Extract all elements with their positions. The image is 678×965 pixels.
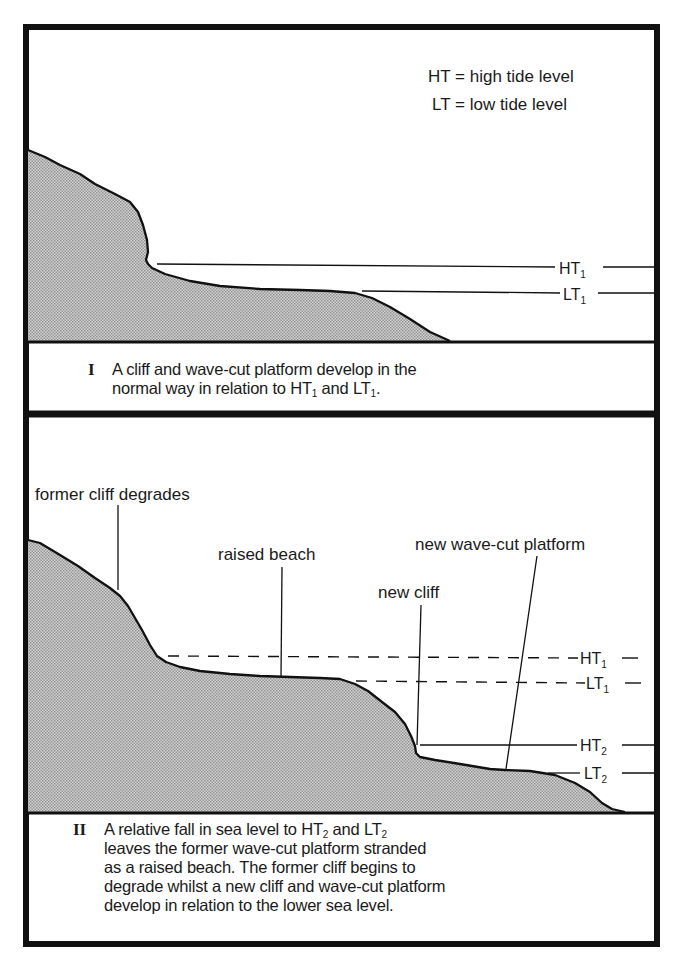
panel-2-caption: II A relative fall in sea level to HT2 a… — [104, 820, 445, 915]
label-new-cliff: new cliff — [378, 583, 439, 602]
panel-2-caption-line1: A relative fall in sea level to HT2 and … — [104, 820, 445, 839]
ht1-line — [157, 264, 555, 267]
former-ht1-dashed-line — [168, 656, 578, 658]
label-former-cliff: former cliff degrades — [35, 485, 190, 504]
label-new-platform: new wave-cut platform — [415, 535, 585, 554]
lt1-line — [362, 291, 560, 293]
panel-1-caption-line2: normal way in relation to HT1 and LT1. — [112, 379, 417, 398]
lt1-label: LT1 — [563, 286, 586, 306]
panel-2-diagram: HT1 LT1 HT2 LT2 former cliff degrades ra… — [28, 485, 655, 812]
panel-2-ht1-label: HT1 — [580, 650, 607, 670]
leader-new-platform — [506, 556, 537, 769]
panel-2-ht2-label: HT2 — [580, 737, 607, 757]
leader-raised-beach — [281, 567, 282, 677]
panel-2-number: II — [73, 820, 86, 839]
panel-1-land — [28, 150, 450, 341]
ht1-label: HT1 — [559, 260, 586, 280]
panel-2-caption-line3: as a raised beach. The former cliff begi… — [104, 858, 445, 877]
panel-1-number: I — [88, 360, 94, 379]
leader-new-cliff — [417, 605, 421, 745]
panel-2-caption-line2: leaves the former wave-cut platform stra… — [104, 839, 445, 858]
legend-lt: LT = low tide level — [432, 95, 567, 114]
panel-1-caption-line1: A cliff and wave-cut platform develop in… — [112, 360, 417, 379]
panel-2-caption-line4: degrade whilst a new cliff and wave-cut … — [104, 877, 445, 896]
panel-2-lt2-label: LT2 — [584, 765, 607, 785]
panel-1-diagram: HT1 LT1 HT = high tide level LT = low ti… — [28, 67, 655, 341]
panel-2-lt1-label: LT1 — [586, 675, 609, 695]
label-raised-beach: raised beach — [218, 545, 315, 564]
legend-ht: HT = high tide level — [428, 67, 574, 86]
panel-2-caption-line5: develop in relation to the lower sea lev… — [104, 896, 445, 915]
panel-1-caption: I A cliff and wave-cut platform develop … — [112, 360, 417, 398]
former-lt1-dashed-line — [356, 681, 585, 683]
